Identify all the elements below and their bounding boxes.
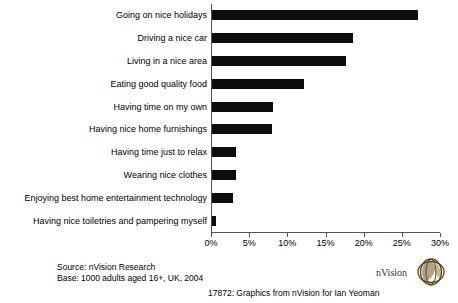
credit-line: 17872: Graphics from nVision for Ian Yeo… bbox=[208, 288, 379, 299]
category-label: Having nice home furnishings bbox=[2, 124, 211, 134]
bar-row: Having nice home furnishings bbox=[0, 118, 458, 141]
bar-track bbox=[212, 95, 273, 118]
bar-track bbox=[212, 4, 418, 27]
bar bbox=[212, 193, 233, 203]
bar-track bbox=[212, 186, 233, 209]
logo-text: nVision bbox=[376, 267, 407, 279]
nvision-logo: nVision bbox=[376, 258, 452, 288]
category-label: Going on nice holidays bbox=[2, 10, 211, 20]
bar-track bbox=[212, 50, 346, 73]
category-label: Having nice toiletries and pampering mys… bbox=[2, 216, 211, 226]
bar-track bbox=[212, 72, 304, 95]
category-label: Having time just to relax bbox=[2, 147, 211, 157]
bar-track bbox=[212, 141, 236, 164]
category-label: Having time on my own bbox=[2, 102, 211, 112]
bar-track bbox=[212, 164, 236, 187]
bar-rows: Going on nice holidaysDriving a nice car… bbox=[0, 4, 458, 232]
x-tick bbox=[440, 233, 441, 237]
bar-row: Living in a nice area bbox=[0, 50, 458, 73]
category-label: Wearing nice clothes bbox=[2, 170, 211, 180]
category-label: Living in a nice area bbox=[2, 56, 211, 66]
x-tick bbox=[287, 233, 288, 237]
x-tick-label: 30% bbox=[431, 238, 449, 249]
bar bbox=[212, 79, 304, 89]
bar-row: Having time just to relax bbox=[0, 141, 458, 164]
bar bbox=[212, 170, 236, 180]
bar-row: Having nice toiletries and pampering mys… bbox=[0, 209, 458, 232]
bar-row: Eating good quality food bbox=[0, 72, 458, 95]
bar bbox=[212, 147, 236, 157]
category-label: Enjoying best home entertainment technol… bbox=[2, 193, 211, 203]
x-tick-label: 25% bbox=[393, 238, 411, 249]
source-block: Source: nVision Research Base: 1000 adul… bbox=[57, 262, 203, 284]
bar-row: Having time on my own bbox=[0, 95, 458, 118]
x-tick-label: 15% bbox=[316, 238, 334, 249]
bar-row: Enjoying best home entertainment technol… bbox=[0, 186, 458, 209]
x-tick-label: 5% bbox=[243, 238, 256, 249]
bar-chart: Going on nice holidaysDriving a nice car… bbox=[0, 0, 458, 240]
bar bbox=[212, 10, 418, 20]
nvision-sphere-icon bbox=[416, 258, 446, 290]
bar-track bbox=[212, 209, 216, 232]
bar bbox=[212, 56, 346, 66]
bar-row: Going on nice holidays bbox=[0, 4, 458, 27]
bar-row: Wearing nice clothes bbox=[0, 164, 458, 187]
x-tick-label: 10% bbox=[278, 238, 296, 249]
x-tick bbox=[402, 233, 403, 237]
bar bbox=[212, 33, 353, 43]
category-label: Eating good quality food bbox=[2, 79, 211, 89]
x-tick bbox=[249, 233, 250, 237]
bar-row: Driving a nice car bbox=[0, 27, 458, 50]
base-line: Base: 1000 adults aged 16+, UK, 2004 bbox=[57, 273, 203, 284]
bar bbox=[212, 124, 272, 134]
x-tick-label: 20% bbox=[355, 238, 373, 249]
x-tick bbox=[364, 233, 365, 237]
bar-track bbox=[212, 27, 353, 50]
x-tick bbox=[211, 233, 212, 237]
source-line: Source: nVision Research bbox=[57, 262, 203, 273]
bar-track bbox=[212, 118, 272, 141]
category-label: Driving a nice car bbox=[2, 33, 211, 43]
bar bbox=[212, 216, 216, 226]
bar bbox=[212, 102, 273, 112]
x-axis-tick-labels: 0%5%10%15%20%25%30% bbox=[0, 238, 458, 250]
x-tick-label: 0% bbox=[204, 238, 217, 249]
x-tick bbox=[326, 233, 327, 237]
